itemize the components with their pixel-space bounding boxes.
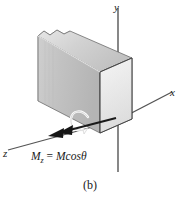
figure-caption: (b) xyxy=(83,178,97,192)
mechanics-diagram: y x z Mz = Mcosθ (b) xyxy=(0,0,181,197)
axis-label-z: z xyxy=(2,147,8,159)
axis-label-y: y xyxy=(113,1,119,13)
moment-equation-label: Mz = Mcosθ xyxy=(30,150,87,165)
axis-label-x: x xyxy=(169,86,175,98)
moment-angle: θ xyxy=(81,150,87,162)
moment-cos: cos xyxy=(66,150,82,162)
figure-container: y x z Mz = Mcosθ (b) xyxy=(0,0,181,197)
